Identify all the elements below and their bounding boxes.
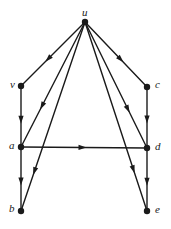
directed-graph-figure: uvcadbe [0, 0, 171, 229]
graph-node-c [144, 84, 150, 90]
edge-u-to-e [85, 22, 147, 211]
edge-u-to-d-arrowhead-icon [124, 104, 130, 112]
edge-u-to-a-arrowhead-icon [40, 101, 46, 109]
graph-node-e [144, 208, 150, 214]
node-layer [18, 19, 150, 214]
graph-node-label-u: u [82, 7, 88, 18]
edge-u-to-c [85, 22, 147, 87]
graph-node-a [18, 144, 24, 150]
graph-node-u [82, 19, 88, 25]
edge-c-to-d-arrowhead-icon [144, 116, 149, 124]
edge-d-to-e-arrowhead-icon [144, 178, 149, 186]
edge-u-to-a [21, 22, 85, 147]
graph-node-label-c: c [155, 79, 160, 90]
graph-node-label-e: e [155, 204, 160, 215]
graph-canvas [0, 0, 171, 229]
edge-u-to-v [21, 22, 85, 86]
edge-a-to-b-arrowhead-icon [18, 177, 23, 185]
edge-layer [21, 22, 147, 211]
graph-node-label-b: b [9, 203, 15, 214]
arrowhead-layer [18, 54, 149, 186]
graph-node-label-d: d [155, 141, 161, 152]
graph-node-v [18, 83, 24, 89]
edge-v-to-a-arrowhead-icon [18, 116, 23, 124]
edge-a-to-d-arrowhead-icon [78, 145, 86, 150]
graph-node-d [144, 145, 150, 151]
edge-u-to-b-arrowhead-icon [33, 167, 38, 175]
edge-u-to-e-arrowhead-icon [130, 165, 135, 173]
graph-node-label-a: a [9, 140, 15, 151]
graph-node-label-v: v [10, 79, 15, 90]
edge-u-to-b [21, 22, 85, 211]
graph-node-b [18, 208, 24, 214]
edge-u-to-d [85, 22, 147, 148]
